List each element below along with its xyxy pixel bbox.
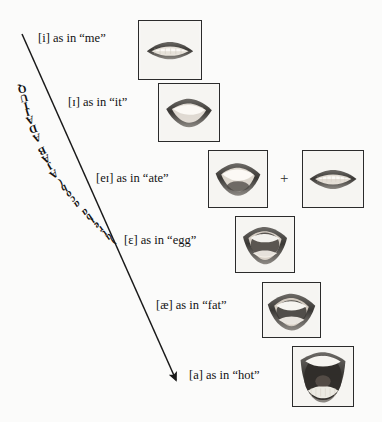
vowel-jaw-diagram: QUIJADA BAJA (boca abierta) [i] as in “m… (0, 0, 382, 422)
caption-glyph: ) (108, 236, 118, 246)
vowel-label-row-i: [i] as in “me” (38, 32, 106, 45)
mouth-photo-ei-first (208, 150, 268, 208)
vowel-label-row-epsilon: [ɛ] as in “egg” (124, 234, 196, 247)
mouth-photo-small-cap-i (158, 83, 220, 142)
mouth-photo-epsilon (235, 216, 295, 273)
vowel-label-row-ei: [eɪ] as in “ate” (96, 172, 169, 185)
vowel-label-row-a: [a] as in “hot” (189, 369, 259, 382)
plus-sign: + (280, 171, 288, 186)
vowel-label-row-ash: [æ] as in “fat” (156, 299, 226, 312)
vowel-label-row-small-cap-i: [ɪ] as in “it” (68, 96, 127, 109)
mouth-photo-ash (262, 282, 321, 338)
mouth-photo-ei-second (302, 150, 364, 208)
mouth-photo-a (292, 346, 354, 407)
mouth-photo-i (138, 20, 202, 80)
